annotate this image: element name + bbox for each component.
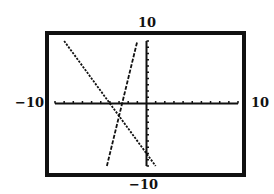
graph-window [0,0,274,194]
